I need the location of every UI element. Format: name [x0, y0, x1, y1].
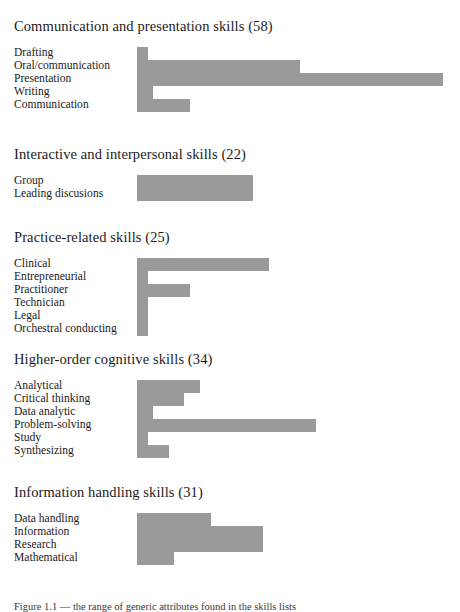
chart-bar-track	[137, 419, 447, 432]
chart-bar-row: Presentation	[0, 73, 460, 86]
chart-bar-track	[137, 73, 447, 86]
chart-category-label: Technician	[14, 296, 65, 309]
chart-bar	[137, 310, 148, 323]
chart-bar-row: Practitioner	[0, 284, 460, 297]
chart-category-label: Synthesizing	[14, 444, 74, 457]
chart-group-rows: DraftingOral/communicationPresentationWr…	[0, 47, 460, 112]
chart-group-rows: ClinicalEntrepreneurialPractitionerTechn…	[0, 258, 460, 336]
chart-bar	[137, 513, 211, 526]
chart-bar-track	[137, 445, 447, 458]
chart-bar	[137, 258, 269, 271]
chart-category-label: Entrepreneurial	[14, 270, 86, 283]
chart-bar	[137, 445, 169, 458]
chart-category-label: Practitioner	[14, 283, 68, 296]
figure-caption: Figure 1.1 — the range of generic attrib…	[14, 600, 454, 612]
chart-bar-track	[137, 432, 447, 445]
chart-bar-row: Synthesizing	[0, 445, 460, 458]
chart-group-title: Information handling skills (31)	[14, 484, 203, 501]
chart-bar	[137, 323, 148, 336]
chart-bar	[137, 73, 443, 86]
chart-bar-track	[137, 99, 447, 112]
chart-category-label: Orchestral conducting	[14, 322, 117, 335]
chart-category-label: Writing	[14, 85, 50, 98]
chart-bar	[137, 432, 148, 445]
chart-category-label: Drafting	[14, 46, 53, 59]
chart-category-label: Critical thinking	[14, 392, 90, 405]
chart-category-label: Leading discusions	[14, 187, 103, 200]
chart-group-rows: Data handlingInformationResearchMathemat…	[0, 513, 460, 565]
figure-generic-attributes-skills: Communication and presentation skills (5…	[0, 0, 460, 612]
chart-group-rows: GroupLeading discusions	[0, 175, 460, 201]
chart-category-label: Research	[14, 538, 57, 551]
chart-category-label: Presentation	[14, 72, 71, 85]
chart-category-label: Mathematical	[14, 551, 78, 564]
chart-bar	[137, 539, 263, 552]
chart-bar	[137, 188, 253, 201]
chart-category-label: Group	[14, 174, 44, 187]
chart-bar-row: Leading discusions	[0, 188, 460, 201]
chart-category-label: Oral/communication	[14, 59, 110, 72]
chart-category-label: Communication	[14, 98, 89, 111]
chart-bar-track	[137, 258, 447, 271]
chart-group-title: Higher-order cognitive skills (34)	[14, 351, 212, 368]
chart-bar-track	[137, 406, 447, 419]
chart-bar-track	[137, 380, 447, 393]
chart-category-label: Analytical	[14, 379, 62, 392]
chart-bar-track	[137, 552, 447, 565]
chart-group-title: Communication and presentation skills (5…	[14, 18, 273, 35]
chart-bar	[137, 86, 153, 99]
chart-bar	[137, 284, 190, 297]
chart-group-rows: AnalyticalCritical thinkingData analytic…	[0, 380, 460, 458]
chart-bar	[137, 297, 148, 310]
chart-bar	[137, 526, 263, 539]
chart-bar	[137, 175, 253, 188]
chart-bar-track	[137, 60, 447, 73]
chart-bar-track	[137, 188, 447, 201]
chart-category-label: Information	[14, 525, 69, 538]
chart-bar-track	[137, 310, 447, 323]
chart-bar-track	[137, 323, 447, 336]
chart-bar-row: Problem-solving	[0, 419, 460, 432]
chart-bar-track	[137, 47, 447, 60]
chart-group-title: Practice-related skills (25)	[14, 229, 170, 246]
chart-bar	[137, 60, 300, 73]
chart-bar-track	[137, 526, 447, 539]
chart-bar	[137, 419, 316, 432]
chart-bar-row: Communication	[0, 99, 460, 112]
chart-bar	[137, 552, 174, 565]
chart-bar	[137, 393, 184, 406]
chart-bar-row: Technician	[0, 297, 460, 310]
chart-bar-row: Orchestral conducting	[0, 323, 460, 336]
chart-bar	[137, 99, 190, 112]
chart-bar	[137, 406, 153, 419]
chart-bar-track	[137, 175, 447, 188]
chart-category-label: Legal	[14, 309, 40, 322]
chart-bar-row: Entrepreneurial	[0, 271, 460, 284]
chart-category-label: Problem-solving	[14, 418, 91, 431]
chart-bar-track	[137, 393, 447, 406]
chart-bar	[137, 271, 148, 284]
chart-bar	[137, 47, 148, 60]
chart-bar	[137, 380, 200, 393]
chart-group-title: Interactive and interpersonal skills (22…	[14, 146, 246, 163]
chart-bar-track	[137, 284, 447, 297]
chart-bar-track	[137, 513, 447, 526]
chart-bar-track	[137, 271, 447, 284]
chart-category-label: Data handling	[14, 512, 79, 525]
chart-bar-track	[137, 539, 447, 552]
chart-category-label: Data analytic	[14, 405, 75, 418]
chart-bar-track	[137, 297, 447, 310]
chart-bar-track	[137, 86, 447, 99]
chart-bar-row: Information	[0, 526, 460, 539]
chart-bar-row: Mathematical	[0, 552, 460, 565]
chart-category-label: Clinical	[14, 257, 51, 270]
chart-category-label: Study	[14, 431, 41, 444]
